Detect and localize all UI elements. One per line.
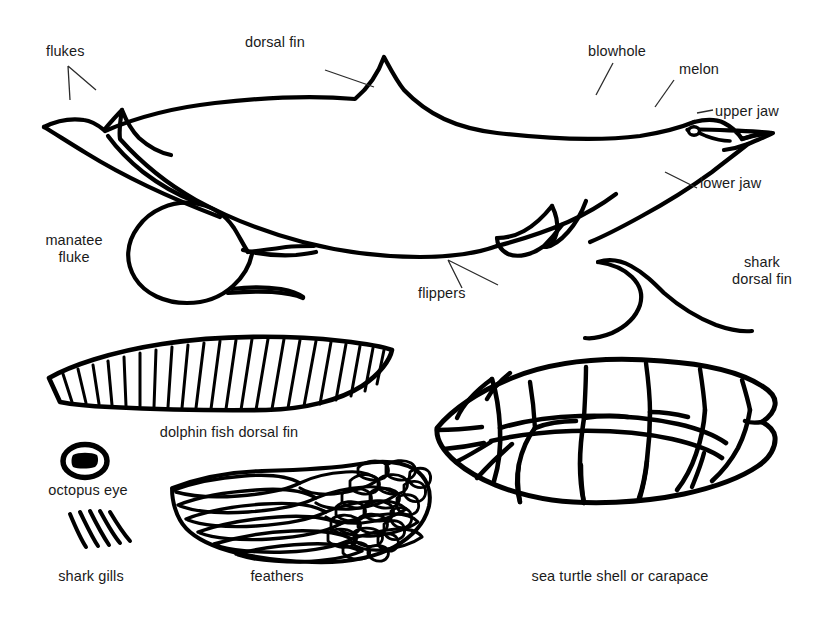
sea-turtle-carapace-figure [437, 359, 775, 503]
label-flukes: flukes [46, 43, 84, 60]
leader-dorsal-fin [325, 70, 374, 87]
scale-coverts [328, 461, 431, 562]
label-shark-gills: shark gills [58, 568, 124, 585]
dolphin-fish-dorsal-fin-figure [49, 337, 392, 410]
dolphin-mouth-line [590, 144, 748, 242]
label-manatee-fluke-line2: fluke [58, 249, 89, 266]
label-octopus-eye: octopus eye [48, 482, 127, 499]
shark-dorsal-fin-figure [585, 260, 752, 338]
dolphin-body-outline [44, 110, 497, 257]
dolphin-fish-fin-rays [63, 339, 384, 410]
shark-fin-trailing-edge [585, 262, 641, 338]
label-flippers: flippers [418, 285, 466, 302]
label-feathers: feathers [250, 568, 303, 585]
label-blowhole: blowhole [588, 43, 646, 60]
leader-blowhole [596, 63, 613, 95]
label-lower-jaw: lower jaw [700, 175, 761, 192]
carapace-notch [745, 421, 762, 423]
octopus-eye-figure [63, 445, 107, 478]
carapace-mid-band [491, 416, 726, 458]
line-art-canvas [0, 0, 824, 627]
diagram-page: flukes dorsal fin blowhole melon upper j… [0, 0, 824, 627]
feathers-figure [172, 461, 431, 563]
label-upper-jaw: upper jaw [715, 103, 779, 120]
label-sea-turtle-shell: sea turtle shell or carapace [532, 568, 709, 585]
label-shark-dorsal-fin-line1: shark [744, 254, 780, 271]
dolphin-back-line [105, 57, 694, 139]
leader-upper-jaw [697, 110, 713, 113]
dolphin-figure [44, 57, 773, 257]
octopus-eye-pupil [72, 453, 99, 469]
label-melon: melon [679, 61, 719, 78]
label-shark-dorsal-fin-line2: dorsal fin [732, 271, 792, 288]
manatee-fluke-figure [128, 203, 316, 303]
leader-flippers [448, 260, 498, 288]
shark-gills-figure [70, 511, 130, 547]
leader-lower-jaw [665, 172, 697, 188]
label-dolphin-fish-dorsal-fin: dolphin fish dorsal fin [160, 424, 299, 441]
manatee-fluke-upper-stem-lower [243, 250, 316, 255]
dolphin-eye [689, 127, 700, 135]
leader-melon [655, 80, 674, 107]
label-manatee-fluke-line1: manatee [45, 232, 102, 249]
label-dorsal-fin: dorsal fin [245, 34, 305, 51]
leader-flukes [68, 66, 96, 100]
